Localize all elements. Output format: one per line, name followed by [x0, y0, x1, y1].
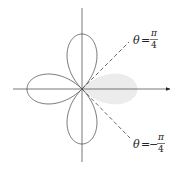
fraction-denominator: 4 — [151, 40, 157, 50]
theta-symbol: θ — [133, 34, 140, 47]
equals-sign: = — [141, 34, 150, 47]
fraction-numerator: π — [157, 132, 165, 142]
label-upper-ray: θ = π 4 — [133, 28, 158, 50]
label-lower-ray: θ = − π 4 — [133, 132, 165, 154]
theta-symbol: θ — [133, 138, 140, 151]
fraction-numerator: π — [150, 28, 158, 38]
fraction-denominator: 4 — [158, 144, 164, 154]
minus-sign: − — [149, 138, 158, 151]
polar-rose-diagram: θ = π 4 θ = − π 4 — [0, 0, 184, 170]
